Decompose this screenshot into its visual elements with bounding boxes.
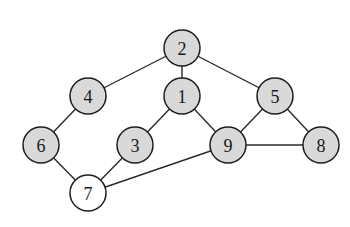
node-6: 6 <box>23 127 59 163</box>
node-1: 1 <box>164 78 200 114</box>
node-9: 9 <box>210 127 246 163</box>
node-label: 7 <box>84 184 93 204</box>
node-label: 4 <box>84 87 93 107</box>
edge-layer <box>41 48 321 193</box>
node-label: 8 <box>317 136 326 156</box>
node-5: 5 <box>257 78 293 114</box>
node-label: 3 <box>131 136 140 156</box>
edge-9-7 <box>88 145 228 193</box>
node-3: 3 <box>117 127 153 163</box>
node-layer: 123456789 <box>23 30 339 211</box>
node-8: 8 <box>303 127 339 163</box>
node-label: 2 <box>178 39 187 59</box>
node-label: 9 <box>224 136 233 156</box>
node-2: 2 <box>164 30 200 66</box>
node-label: 5 <box>271 87 280 107</box>
node-4: 4 <box>70 78 106 114</box>
node-label: 6 <box>37 136 46 156</box>
graph-diagram: 123456789 <box>0 0 350 227</box>
node-label: 1 <box>178 87 187 107</box>
node-7: 7 <box>70 175 106 211</box>
